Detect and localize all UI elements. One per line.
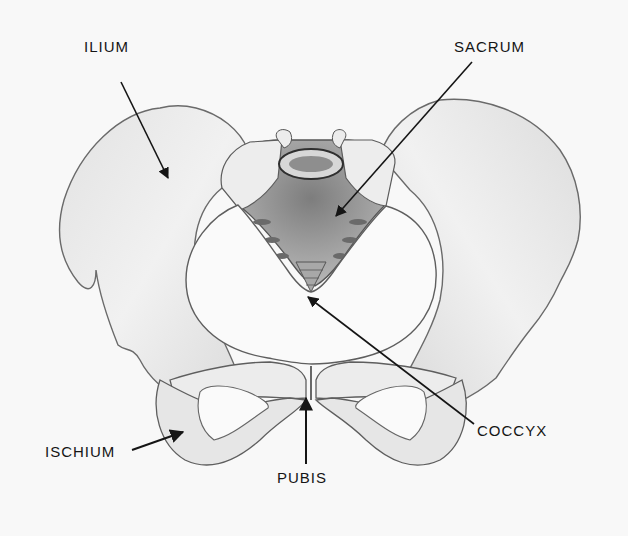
- pelvis-diagram: ILIUM SACRUM COCCYX ISCHIUM PUBIS: [0, 0, 628, 536]
- label-pubis: PUBIS: [277, 469, 327, 486]
- label-coccyx: COCCYX: [477, 422, 547, 439]
- label-sacrum: SACRUM: [454, 38, 525, 55]
- vertebral-body-shadow: [289, 156, 333, 172]
- label-ilium: ILIUM: [84, 38, 129, 55]
- label-ischium: ISCHIUM: [45, 443, 115, 460]
